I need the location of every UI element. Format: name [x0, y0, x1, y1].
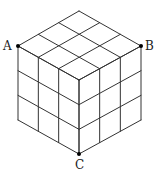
cube-grid-lines [18, 11, 141, 154]
left-face-line-u-1 [18, 71, 79, 105]
point-b-dot [139, 44, 143, 48]
point-a-label: A [2, 39, 12, 53]
point-b-label: B [145, 39, 154, 53]
right-face-line-u-1 [79, 71, 141, 105]
left-face-line-u-3 [18, 120, 79, 154]
cube-diagram: ABC [0, 0, 155, 169]
left-face-line-u-2 [18, 95, 79, 129]
point-c-label: C [75, 158, 84, 169]
point-a-dot [16, 44, 20, 48]
top-face-line-v-3 [79, 11, 141, 46]
right-face-line-u-3 [79, 120, 141, 154]
right-face-line-u-2 [79, 95, 141, 129]
point-c-dot [77, 152, 81, 156]
